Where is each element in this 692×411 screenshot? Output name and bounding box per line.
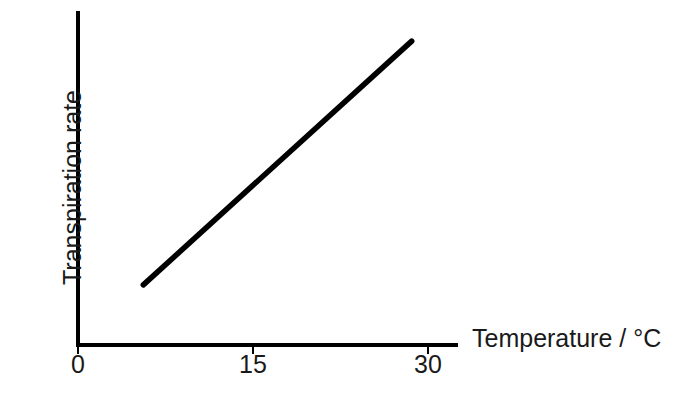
- y-axis-title: Transpiration rate: [60, 63, 85, 313]
- data-line-transpiration: [143, 41, 411, 285]
- chart-container: 0 15 30 Temperature / °C Transpiration r…: [0, 0, 692, 411]
- x-tick-label-30: 30: [405, 352, 451, 377]
- x-tick-label-0: 0: [62, 352, 94, 377]
- x-axis-title: Temperature / °C: [472, 326, 661, 351]
- x-tick-label-15: 15: [230, 352, 276, 377]
